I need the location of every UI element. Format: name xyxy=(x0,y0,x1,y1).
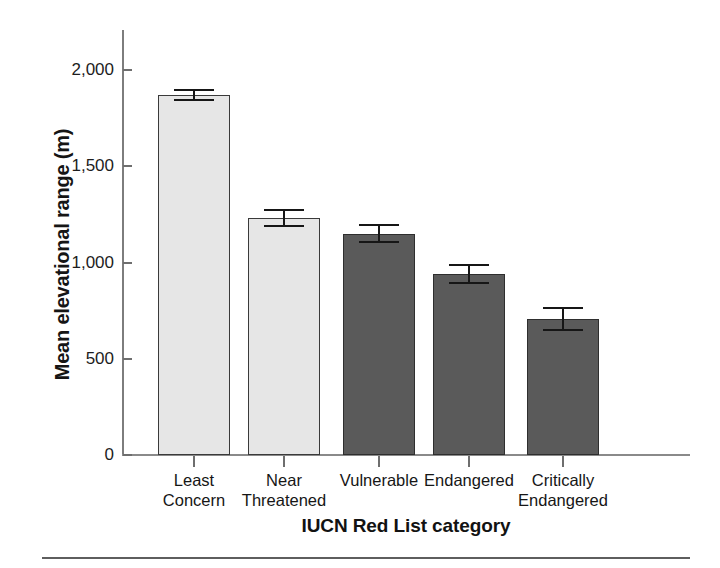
x-axis-title: IUCN Red List category xyxy=(122,515,690,537)
x-tick-2 xyxy=(283,456,285,467)
error-bar-cap-2-lower xyxy=(264,225,304,227)
error-bar-stem-3 xyxy=(378,225,380,242)
error-bar-cap-1-lower xyxy=(174,99,214,101)
y-tick-label: 2,000 xyxy=(44,60,114,80)
y-tick-label: 1,500 xyxy=(44,156,114,176)
bar-4 xyxy=(433,274,505,455)
x-tick-label-5: Critically Endangered xyxy=(493,470,633,510)
bar-5 xyxy=(527,319,599,455)
x-tick-5 xyxy=(562,456,564,467)
error-bar-cap-3-lower xyxy=(359,241,399,243)
y-tick-500 xyxy=(123,358,132,360)
y-tick-0 xyxy=(123,454,132,456)
y-tick-label: 500 xyxy=(44,349,114,369)
bar-3 xyxy=(343,234,415,455)
error-bar-stem-2 xyxy=(283,210,285,226)
error-bar-cap-4-upper xyxy=(449,264,489,266)
bottom-divider xyxy=(42,557,690,559)
error-bar-cap-1-upper xyxy=(174,89,214,91)
y-tick-label: 0 xyxy=(44,445,114,465)
error-bar-stem-4 xyxy=(468,265,470,282)
y-tick-1000 xyxy=(123,262,132,264)
y-axis-line xyxy=(122,30,124,456)
bar-1 xyxy=(158,95,230,455)
bar-2 xyxy=(248,218,320,455)
y-tick-2000 xyxy=(123,69,132,71)
error-bar-stem-5 xyxy=(562,308,564,330)
x-tick-3 xyxy=(378,456,380,467)
error-bar-cap-4-lower xyxy=(449,282,489,284)
y-tick-1500 xyxy=(123,165,132,167)
y-tick-label: 1,000 xyxy=(44,253,114,273)
error-bar-cap-3-upper xyxy=(359,224,399,226)
error-bar-cap-5-upper xyxy=(543,307,583,309)
figure-bar-chart: Mean elevational range (m) 05001,0001,50… xyxy=(0,0,720,568)
error-bar-cap-2-upper xyxy=(264,209,304,211)
error-bar-cap-5-lower xyxy=(543,329,583,331)
x-tick-4 xyxy=(468,456,470,467)
x-tick-1 xyxy=(193,456,195,467)
